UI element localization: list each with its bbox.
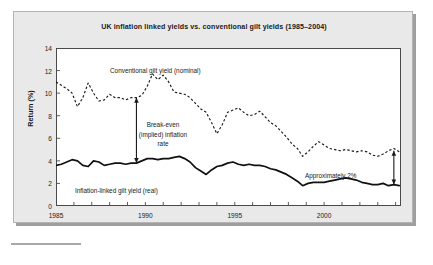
chart-title: UK inflation linked yields vs. conventio… (14, 23, 414, 31)
x-tick-label: 1995 (227, 212, 242, 219)
y-tick-label: 12 (32, 67, 52, 74)
breakeven-line-3: rate (126, 139, 200, 149)
figure-panel: UK inflation linked yields vs. conventio… (13, 11, 413, 223)
breakeven-line-2: (implied) inflation (126, 130, 200, 140)
arrow-head (134, 98, 139, 103)
breakeven-line-1: Break-even (126, 120, 200, 130)
arrow-head (392, 180, 397, 185)
x-tick-label: 1985 (49, 212, 64, 219)
y-tick-label: 8 (32, 112, 52, 119)
y-tick-label: 2 (32, 180, 52, 187)
y-tick-label: 6 (32, 135, 52, 142)
y-tick-label: 0 (32, 203, 52, 210)
figure-screenshot: UK inflation linked yields vs. conventio… (0, 0, 433, 265)
y-axis-ticks: 02468101214 (30, 48, 52, 206)
footer-rule (11, 243, 81, 245)
y-tick-label: 10 (32, 90, 52, 97)
annotation-breakeven-label: Break-even (implied) inflation rate (126, 120, 200, 149)
y-tick-label: 4 (32, 157, 52, 164)
arrow-head (392, 151, 397, 156)
annotation-approx-label: Approximately 2% (305, 172, 357, 179)
annotation-real-label: Inflation-linked gilt yield (real) (75, 187, 158, 194)
chart-svg (56, 48, 401, 206)
plot-area (56, 48, 401, 206)
series-line-nominal (56, 74, 399, 156)
x-tick-label: 2000 (317, 212, 332, 219)
x-tick-label: 1990 (138, 212, 153, 219)
series-line-real (56, 156, 399, 185)
y-tick-label: 14 (32, 45, 52, 52)
axis-ticks-marks (56, 48, 396, 206)
annotation-nominal-label: Conventional gilt yield (nominal) (110, 67, 201, 74)
x-axis-ticks: 1985199019952000 (56, 212, 401, 224)
